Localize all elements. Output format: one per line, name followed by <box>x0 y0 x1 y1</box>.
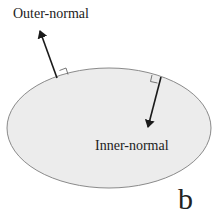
panel-letter: b <box>178 182 193 212</box>
normals-diagram: Outer-normal Inner-normal b <box>0 0 214 212</box>
outer-normal-arrow <box>40 31 57 78</box>
inner-normal-label: Inner-normal <box>95 138 169 153</box>
outer-normal-label: Outer-normal <box>13 6 89 21</box>
region-ellipse <box>7 68 211 188</box>
